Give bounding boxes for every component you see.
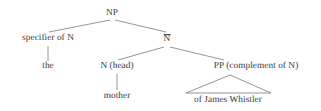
n-bar-overbar: N	[164, 35, 171, 45]
node-np: NP	[106, 9, 118, 19]
node-specifier-of-n: specifier of N	[22, 34, 74, 44]
tree-edge-np-to-specifier	[49, 20, 110, 32]
tree-edge-nbar-to-pp	[170, 47, 224, 60]
tree-edge-nbar-to-nhead	[118, 47, 164, 60]
node-the: the	[42, 62, 54, 72]
tree-edges-layer	[0, 0, 321, 111]
node-n-bar: N	[164, 35, 171, 45]
pp-expansion-triangle	[186, 75, 271, 93]
tree-edge-np-to-nbar	[115, 20, 166, 32]
node-mother: mother	[104, 92, 131, 102]
node-of-james-whistler: of James Whistler	[194, 96, 262, 106]
node-n-head: N (head)	[100, 62, 133, 72]
node-pp-complement: PP (complement of N)	[214, 62, 299, 72]
syntax-tree-figure: NP specifier of N N the N (head) PP (com…	[0, 0, 321, 111]
